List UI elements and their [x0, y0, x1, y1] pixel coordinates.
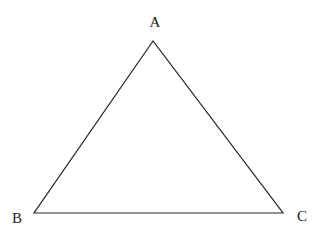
vertex-label-c: C [297, 208, 307, 224]
vertex-label-b: B [12, 210, 22, 226]
triangle-abc [34, 41, 283, 213]
vertex-label-a: A [150, 14, 161, 30]
triangle-diagram: A B C [0, 0, 323, 232]
